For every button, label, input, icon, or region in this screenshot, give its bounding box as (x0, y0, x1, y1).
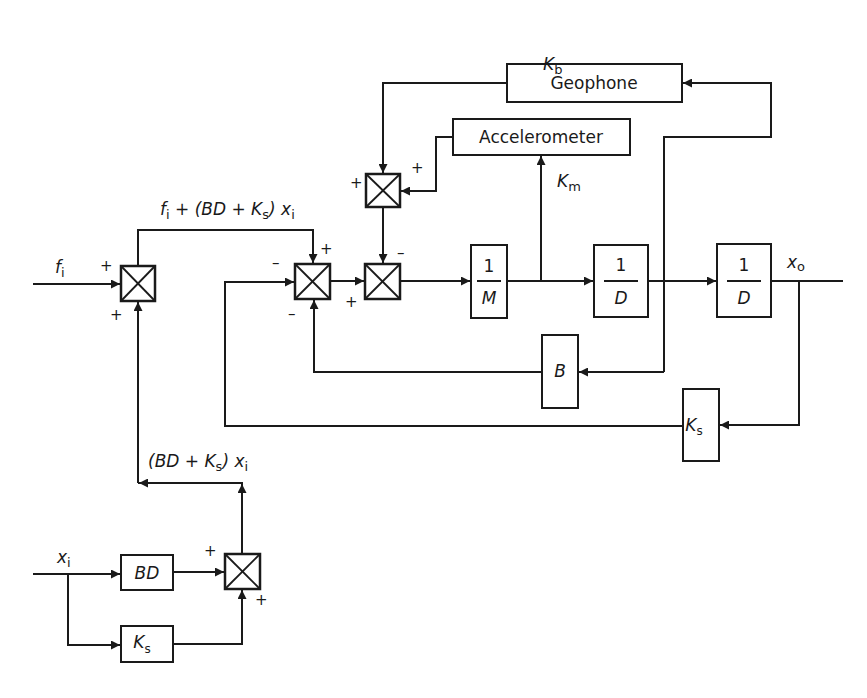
bd-block: BD (121, 555, 173, 590)
integrator-1-block: 1 D (594, 245, 648, 317)
sum-top-label: fi + (BD + Ks) xi (160, 199, 295, 222)
svg-text:B: B (554, 361, 566, 381)
svg-text:D: D (737, 288, 750, 308)
svg-text:+: + (255, 591, 268, 609)
svg-text:+: + (100, 257, 113, 275)
integrator-2-block: 1 D (717, 244, 771, 317)
svg-text:1: 1 (616, 255, 627, 275)
ks-block: Ks (121, 626, 173, 662)
svg-text:+: + (320, 240, 333, 258)
summer-main-right (365, 264, 400, 299)
svg-text:+: + (345, 293, 358, 311)
svg-text:M: M (482, 288, 497, 308)
svg-text:–: – (272, 254, 280, 272)
spring-feedback-block: Ks (683, 389, 719, 461)
svg-text:1: 1 (739, 255, 750, 275)
summer-main-left (295, 264, 330, 299)
svg-text:–: – (288, 305, 296, 323)
svg-text:–: – (397, 244, 405, 262)
geophone-label: Geophone (550, 73, 637, 93)
input-force-label: fi (55, 257, 65, 280)
svg-text:BD: BD (135, 563, 160, 583)
svg-text:+: + (110, 306, 123, 324)
summer-input (121, 266, 155, 301)
inverse-mass-block: 1 M (471, 245, 507, 318)
svg-text:+: + (411, 159, 424, 177)
svg-text:+: + (350, 174, 363, 192)
input-disp-label: xi (56, 547, 71, 570)
sum-bottom-label: (BD + Ks) xi (148, 451, 248, 474)
svg-text:D: D (614, 288, 627, 308)
geophone-block: Geophone (507, 64, 682, 102)
damping-block: B (542, 335, 578, 408)
summer-bottom (225, 554, 260, 589)
output-label: xo (786, 252, 805, 274)
svg-text:+: + (204, 542, 217, 560)
summer-sensors (366, 174, 400, 207)
km-label: Km (557, 171, 581, 194)
accelerometer-label: Accelerometer (479, 127, 603, 147)
accelerometer-block: Accelerometer (453, 119, 630, 155)
block-diagram: Geophone Kb Accelerometer Km 1 M 1 D (0, 0, 867, 698)
svg-text:1: 1 (484, 256, 495, 276)
kb-label: Kb (543, 54, 562, 77)
